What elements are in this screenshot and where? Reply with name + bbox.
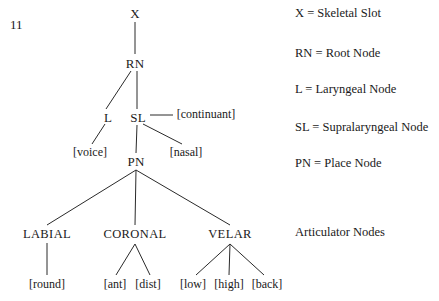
feature-label-high: [high] bbox=[214, 278, 243, 290]
tree-edge-rn-l bbox=[106, 71, 131, 109]
feature-label-voice: [voice] bbox=[73, 146, 107, 158]
tree-edge-velar-back bbox=[230, 244, 264, 275]
tree-node-pn: PN bbox=[127, 155, 144, 168]
tree-edge-pn-labial bbox=[47, 170, 136, 225]
tree-edge-velar-high bbox=[229, 244, 230, 275]
feature-label-nasal: [nasal] bbox=[170, 146, 203, 158]
tree-edge-pn-velar bbox=[136, 170, 230, 225]
legend-sl: SL = Supralaryngeal Node bbox=[295, 121, 428, 134]
feature-label-dist: [dist] bbox=[135, 278, 160, 290]
legend-l: L = Laryngeal Node bbox=[295, 83, 396, 96]
feature-geometry-diagram: 11 XRNLSLPNLABIALCORONALVELAR [continuan… bbox=[0, 0, 439, 301]
tree-edge-coronal-dist bbox=[135, 244, 150, 275]
tree-edge-velar-low bbox=[196, 244, 230, 275]
feature-label-round: [round] bbox=[29, 278, 65, 290]
tree-node-rn: RN bbox=[126, 57, 144, 70]
legend-pn: PN = Place Node bbox=[295, 157, 382, 170]
example-number: 11 bbox=[10, 18, 23, 31]
feature-label-back: [back] bbox=[252, 278, 283, 290]
tree-node-x: X bbox=[130, 7, 140, 20]
feature-label-continuant: [continuant] bbox=[177, 108, 236, 120]
tree-edge-coronal-ant bbox=[116, 244, 135, 275]
tree-edge-l-voice bbox=[92, 124, 105, 144]
tree-node-velar: VELAR bbox=[208, 228, 252, 241]
tree-edge-sl-nasal bbox=[143, 124, 182, 144]
feature-label-ant: [ant] bbox=[104, 278, 127, 290]
legend-an: Articulator Nodes bbox=[295, 226, 385, 239]
tree-node-l: L bbox=[104, 111, 112, 124]
legend-rn: RN = Root Node bbox=[295, 47, 380, 60]
tree-node-labial: LABIAL bbox=[23, 228, 71, 241]
tree-node-sl: SL bbox=[130, 111, 146, 124]
tree-edge-pn-coronal bbox=[135, 170, 136, 225]
tree-node-coronal: CORONAL bbox=[103, 228, 166, 241]
tree-edge-sl-pn bbox=[136, 125, 137, 153]
feature-label-low: [low] bbox=[180, 278, 206, 290]
legend-x: X = Skeletal Slot bbox=[295, 7, 381, 20]
